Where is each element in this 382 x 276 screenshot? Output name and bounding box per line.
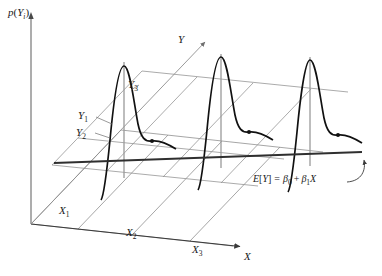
x-axis-label-text: X: [243, 250, 252, 262]
eq-plus: +: [294, 173, 300, 184]
y-axis-label-text: Y: [178, 33, 186, 45]
svg-text:p(Yi): p(Yi): [7, 6, 29, 21]
y-label-3-sub: 3: [134, 84, 138, 93]
x-tick-1-sub: 1: [66, 210, 70, 219]
vertical-axis-label: p(Yi): [7, 6, 29, 21]
x-tick-label-1: X1: [58, 204, 70, 219]
svg-text:X1: X1: [58, 204, 70, 219]
x-tick-3-sub: 3: [199, 249, 203, 258]
y-label-2-sub: 2: [82, 132, 86, 141]
y-label-1: Y1: [78, 109, 88, 124]
svg-text:Y1: Y1: [78, 109, 88, 124]
eq-bracket-close: ]: [268, 173, 271, 184]
regression-normal-distributions-figure: p(Yi) Y X X1 X2 X3: [0, 0, 382, 276]
eq-e: E: [252, 173, 259, 184]
mean-point-x1: [150, 139, 154, 143]
y-axis-label: Y: [178, 33, 186, 45]
x-tick-label-3: X3: [191, 243, 203, 258]
eq-equals: =: [274, 173, 280, 184]
normal-curve-x1: [101, 66, 176, 200]
mean-point-x3: [336, 133, 340, 137]
x-tick-2-sub: 2: [133, 232, 137, 241]
svg-text:E[Y]=β0+β1X: E[Y]=β0+β1X: [252, 173, 317, 187]
eq-sub-0: 0: [288, 178, 292, 187]
x-tick-label-2: X2: [125, 226, 137, 241]
axis-label-paren-close: ): [25, 6, 29, 19]
eq-x: X: [309, 173, 317, 184]
x-axis-label: X: [243, 250, 252, 262]
figure-canvas: p(Yi) Y X X1 X2 X3: [0, 0, 382, 276]
vertical-axis: [28, 12, 33, 224]
normal-curves: [101, 57, 362, 200]
y-label-1-sub: 1: [84, 115, 88, 124]
mean-point-x2: [247, 130, 251, 134]
normal-curve-x2: [198, 57, 273, 190]
svg-text:X3: X3: [191, 243, 203, 258]
regression-line: [54, 152, 362, 163]
upper-plane-grid: [52, 71, 348, 186]
y-depth-axis: [31, 42, 205, 224]
svg-text:X2: X2: [125, 226, 137, 241]
equation-callout-arrow: [347, 160, 364, 182]
regression-equation: E[Y]=β0+β1X: [252, 173, 317, 187]
